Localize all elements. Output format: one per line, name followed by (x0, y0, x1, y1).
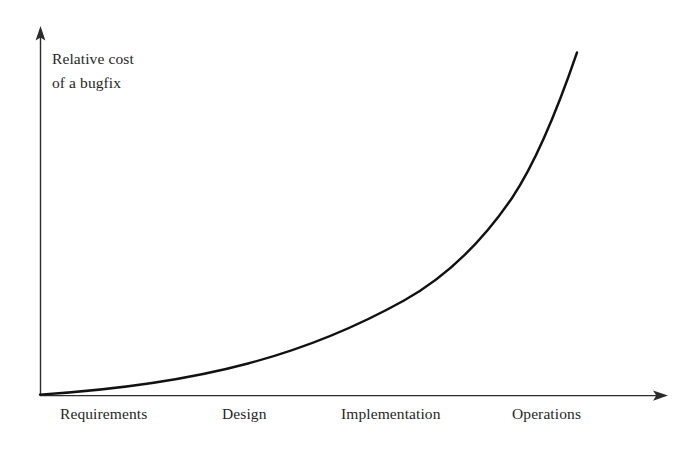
x-axis-tick-operations: Operations (512, 405, 581, 422)
chart-svg: Relative cost of a bugfix Requirements D… (0, 0, 677, 450)
cost-of-change-chart: Relative cost of a bugfix Requirements D… (0, 0, 677, 450)
chart-background (0, 0, 677, 450)
y-axis-label-line-1: Relative cost (52, 50, 134, 67)
x-axis-tick-design: Design (222, 405, 267, 422)
x-axis-tick-implementation: Implementation (341, 405, 441, 422)
y-axis-label-line-2: of a bugfix (52, 74, 121, 91)
x-axis-tick-requirements: Requirements (60, 405, 147, 422)
